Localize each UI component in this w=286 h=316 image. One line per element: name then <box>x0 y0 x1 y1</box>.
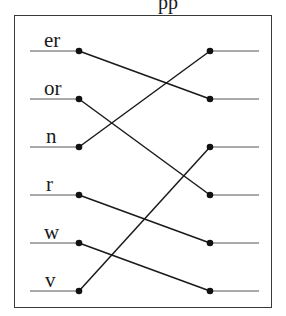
connection-line <box>79 51 210 147</box>
matching-diagram: pp er or n r w v <box>0 0 286 316</box>
left-dot <box>76 144 83 151</box>
right-dot <box>207 192 214 199</box>
left-dot <box>76 240 83 247</box>
right-dot <box>207 288 214 295</box>
connection-line <box>79 51 210 99</box>
right-dot <box>207 240 214 247</box>
right-dot <box>207 96 214 103</box>
connection-line <box>79 243 210 291</box>
connection-line <box>79 99 210 195</box>
left-dot <box>76 288 83 295</box>
connection-lines <box>0 0 286 316</box>
right-dot <box>207 48 214 55</box>
right-dot <box>207 144 214 151</box>
left-dot <box>76 192 83 199</box>
left-dot <box>76 48 83 55</box>
connection-line <box>79 147 210 291</box>
left-dot <box>76 96 83 103</box>
